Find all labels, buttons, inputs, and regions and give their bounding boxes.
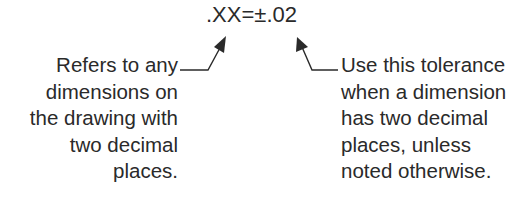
left-leader-arrow-icon <box>180 36 226 70</box>
leader-lines <box>0 0 531 202</box>
right-leader-arrow-icon <box>296 37 338 70</box>
